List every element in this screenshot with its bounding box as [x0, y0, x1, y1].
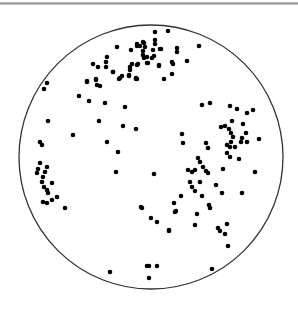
data-point: [149, 216, 154, 221]
data-point: [45, 201, 50, 206]
data-point: [77, 94, 82, 99]
data-point: [114, 170, 119, 175]
data-point: [200, 103, 205, 108]
pole-points: [35, 29, 262, 281]
data-point: [210, 267, 215, 272]
data-point: [188, 180, 193, 185]
data-point: [50, 198, 55, 203]
data-point: [245, 111, 250, 116]
data-point: [43, 170, 48, 175]
data-point: [219, 125, 224, 130]
data-point: [127, 73, 132, 78]
data-point: [226, 244, 231, 249]
data-point: [200, 194, 205, 199]
data-point: [46, 119, 51, 124]
data-point: [85, 80, 90, 85]
data-point: [225, 222, 230, 227]
data-point: [41, 175, 46, 180]
data-point: [181, 141, 186, 146]
data-point: [159, 47, 164, 52]
data-point: [147, 264, 152, 269]
data-point: [198, 180, 203, 185]
data-point: [170, 72, 175, 77]
data-point: [229, 140, 234, 145]
data-point: [221, 167, 226, 172]
data-point: [153, 42, 158, 47]
data-point: [147, 276, 152, 281]
data-point: [116, 150, 121, 155]
data-point: [220, 191, 225, 196]
stereonet-plot: [0, 0, 298, 314]
data-point: [103, 101, 108, 106]
data-point: [186, 168, 191, 173]
data-point: [136, 62, 141, 67]
data-point: [197, 44, 202, 49]
data-point: [245, 140, 250, 145]
data-point: [229, 131, 234, 136]
data-point: [185, 59, 190, 64]
data-point: [97, 119, 102, 124]
data-point: [45, 165, 50, 170]
data-point: [241, 122, 246, 127]
data-point: [108, 270, 113, 275]
data-point: [225, 151, 230, 156]
data-point: [231, 135, 236, 140]
data-point: [228, 155, 233, 160]
data-point: [140, 206, 145, 211]
data-point: [195, 212, 200, 217]
data-point: [239, 140, 244, 145]
data-point: [190, 185, 195, 190]
data-point: [201, 165, 206, 170]
data-point: [208, 101, 213, 106]
data-point: [175, 50, 180, 55]
data-point: [223, 124, 228, 129]
data-point: [104, 60, 109, 65]
data-point: [223, 232, 228, 237]
data-point: [206, 146, 211, 151]
data-point: [179, 194, 184, 199]
data-point: [94, 78, 99, 83]
data-point: [180, 132, 185, 137]
data-point: [155, 264, 160, 269]
primitive-circle: [19, 25, 283, 289]
data-point: [171, 62, 176, 67]
data-point: [193, 223, 198, 228]
data-point: [198, 160, 203, 165]
data-point: [228, 104, 233, 109]
data-point: [46, 191, 51, 196]
data-point: [129, 48, 134, 53]
data-point: [240, 191, 245, 196]
data-point: [233, 145, 238, 150]
data-point: [175, 46, 180, 51]
data-point: [237, 157, 242, 162]
data-point: [244, 131, 249, 136]
data-point: [196, 156, 201, 161]
data-point: [146, 61, 151, 66]
data-point: [153, 38, 158, 43]
data-point: [128, 68, 133, 73]
data-point: [63, 206, 68, 211]
data-point: [227, 127, 232, 132]
data-point: [40, 180, 45, 185]
data-point: [166, 29, 171, 34]
data-point: [257, 137, 262, 142]
data-point: [71, 133, 76, 138]
data-point: [105, 140, 110, 145]
data-point: [153, 30, 158, 35]
data-point: [42, 87, 47, 92]
data-point: [111, 70, 116, 75]
data-point: [155, 220, 160, 225]
data-point: [98, 84, 103, 89]
data-point: [38, 161, 43, 166]
data-point: [162, 77, 167, 82]
data-point: [235, 107, 240, 112]
data-point: [121, 124, 126, 129]
data-point: [45, 81, 50, 86]
data-point: [152, 172, 157, 177]
data-point: [40, 143, 45, 148]
data-point: [193, 168, 198, 173]
data-point: [141, 49, 146, 54]
data-point: [218, 229, 223, 234]
data-point: [152, 54, 157, 59]
data-point: [36, 167, 41, 172]
